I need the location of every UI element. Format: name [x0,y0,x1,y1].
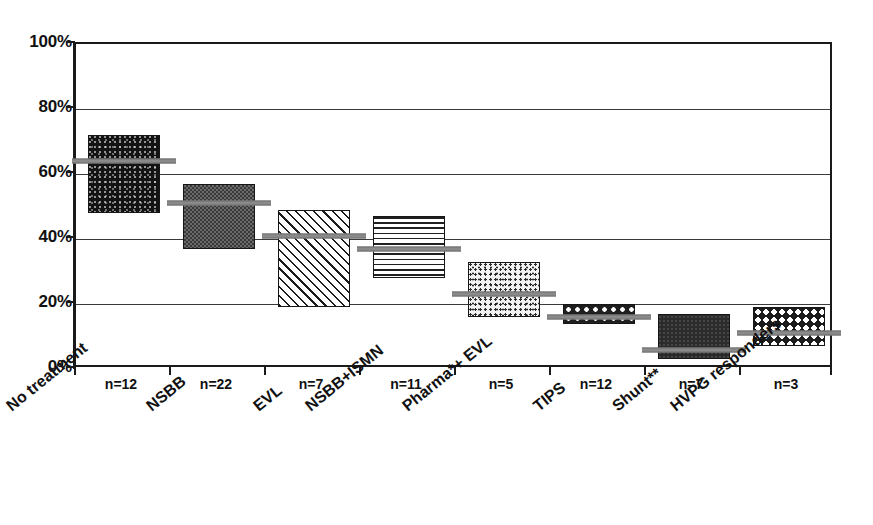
cat-label-wrap-hvpg-responders: HVPG responders [667,401,804,419]
x-tick-mark-7 [739,367,741,375]
y-tick-label-40: 40% [10,227,72,247]
cat-label-wrap-pharma-evl: Pharma*+ EVL [399,401,509,419]
median-line-tips [547,315,651,320]
cat-label-wrap-shunt: Shunt** [609,401,667,419]
cat-label-wrap-nsbb-ismn: NSBB+ISMN [302,401,397,419]
median-line-pharma-evl [452,292,556,297]
n-label-pharma-evl: n=5 [451,376,551,392]
x-tick-mark-2 [264,367,266,375]
bar-group-no-treatment[interactable] [76,44,171,369]
n-label-hvpg-responders: n=3 [736,376,836,392]
bar-box-no-treatment[interactable] [88,135,160,213]
median-line-evl [262,234,366,239]
cat-label-wrap-tips: TIPS [530,401,566,419]
x-axis: n=12 n=22 n=7 n=11 n=5 n=12 n=7 n=3 No t… [74,367,832,525]
cat-label-wrap-evl: EVL [250,401,281,419]
plot-area [74,42,832,367]
bar-box-evl[interactable] [278,210,350,307]
cat-label-wrap-no-treatment: No treatment [3,401,102,419]
bar-box-nsbb[interactable] [183,184,255,249]
chart-container: 100% 80% 60% 40% 20% 0% [0,0,873,525]
x-tick-mark-5 [549,367,551,375]
bar-group-shunt[interactable] [646,44,741,369]
bar-group-pharma-evl[interactable] [456,44,551,369]
y-tick-label-100: 100% [10,32,72,52]
y-axis: 100% 80% 60% 40% 20% 0% [0,0,72,525]
bar-group-tips[interactable] [551,44,646,369]
bar-group-nsbb[interactable] [171,44,266,369]
bar-group-nsbb-ismn[interactable] [361,44,456,369]
bar-box-pharma-evl[interactable] [468,262,540,317]
x-tick-mark-0 [74,367,76,375]
y-tick-label-60: 60% [10,162,72,182]
y-tick-label-80: 80% [10,97,72,117]
median-line-nsbb [167,201,271,206]
median-line-no-treatment [72,159,176,164]
bar-group-hvpg-responders[interactable] [741,44,836,369]
bar-group-evl[interactable] [266,44,361,369]
cat-label-wrap-nsbb: NSBB [143,401,188,419]
x-tick-mark-8 [830,367,832,375]
median-line-nsbb-ismn [357,247,461,252]
y-tick-label-20: 20% [10,292,72,312]
x-tick-mark-1 [169,367,171,375]
